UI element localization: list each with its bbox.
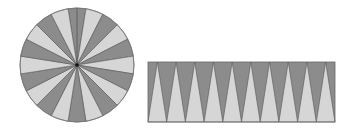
center-point xyxy=(75,63,79,67)
sector-rearrangement-diagram xyxy=(0,0,350,130)
sectored-circle xyxy=(20,8,134,122)
rearranged-rectangle xyxy=(148,62,335,122)
